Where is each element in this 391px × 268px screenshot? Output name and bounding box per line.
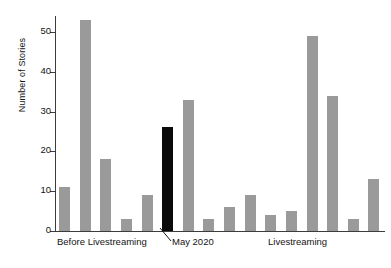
y-axis-title: Number of Stories: [17, 5, 27, 145]
bar-13: [307, 36, 318, 231]
bar-11: [265, 215, 276, 231]
bar-12: [286, 211, 297, 231]
bar-6: [162, 127, 173, 231]
bar-5: [142, 195, 153, 231]
x-axis-line: [55, 231, 385, 232]
bar-10: [245, 195, 256, 231]
bar-1: [59, 187, 70, 231]
bar-chart-figure: Number of Stories 01020304050 Before Liv…: [0, 0, 391, 268]
bar-series: [55, 8, 385, 231]
y-tick-label: 20: [40, 144, 51, 155]
group-label-may-2020: May 2020: [172, 236, 214, 247]
y-tick-label: 10: [40, 184, 51, 195]
bar-16: [368, 179, 379, 231]
bar-7: [183, 100, 194, 231]
bar-2: [80, 20, 91, 231]
y-tick-label: 30: [40, 105, 51, 116]
may-2020-pointer-line: [160, 228, 174, 242]
y-tick-label: 0: [46, 224, 51, 235]
bar-4: [121, 219, 132, 231]
bar-3: [100, 159, 111, 231]
y-tick-label: 40: [40, 65, 51, 76]
bar-8: [203, 219, 214, 231]
bar-15: [348, 219, 359, 231]
bar-9: [224, 207, 235, 231]
group-label-livestreaming: Livestreaming: [268, 236, 327, 247]
group-label-before-livestreaming: Before Livestreaming: [57, 236, 147, 247]
y-tick-label: 50: [40, 25, 51, 36]
plot-area: 01020304050: [55, 8, 385, 232]
bar-14: [327, 96, 338, 231]
